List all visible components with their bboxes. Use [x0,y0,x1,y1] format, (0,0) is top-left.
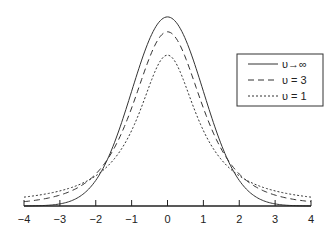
plot-area [24,17,311,206]
x-tick-label: −3 [54,213,67,225]
x-tick-label: −4 [18,213,31,225]
x-tick-label: 3 [272,213,278,225]
x-tick-label: 2 [236,213,242,225]
chart: −4−3−2−101234 υ→∞ υ = 3 υ = 1 [0,0,330,234]
x-tick-label: 4 [308,213,314,225]
x-tick-label: 1 [200,213,206,225]
legend-label-normal: υ→∞ [282,58,307,70]
x-tick-label: −1 [125,213,138,225]
x-tick-label: 0 [164,213,170,225]
series-line-normal [24,17,311,206]
legend: υ→∞ υ = 3 υ = 1 [237,54,323,106]
x-tick-label: −2 [89,213,102,225]
legend-label-t1: υ = 1 [282,90,307,102]
legend-label-t3: υ = 3 [282,74,307,86]
